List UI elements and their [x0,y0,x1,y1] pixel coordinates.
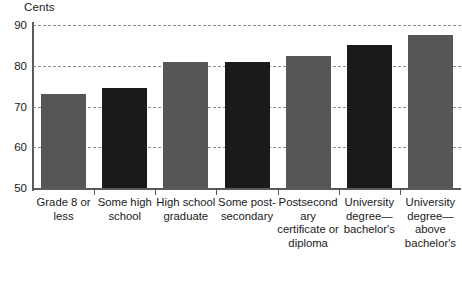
x-axis-tick [94,190,95,195]
bar [347,45,392,188]
x-axis-category-label: Grade 8 or less [31,196,96,223]
x-axis-line [32,188,461,190]
x-axis-tick [339,190,340,195]
y-axis-tick-label: 70 [0,101,27,113]
x-axis-category-label: High school graduate [153,196,218,223]
y-axis-tick-label: 90 [0,19,27,31]
x-axis-category-label: University degree—above bachelor's [398,196,462,250]
y-axis-tick-label: 80 [0,60,27,72]
bar-chart: Cents 5060708090 Grade 8 or lessSome hig… [0,0,462,281]
x-axis-category-label: Postsecondary certificate or diploma [276,196,341,250]
x-axis-tick [400,190,401,195]
x-axis-category-label: Some post-secondary [214,196,279,223]
y-axis-unit-caption: Cents [24,1,55,13]
x-axis-category-labels: Grade 8 or lessSome high schoolHigh scho… [33,196,461,281]
x-axis-tick [216,190,217,195]
x-axis-tick [278,190,279,195]
bar [102,88,147,188]
bar [225,62,270,188]
x-axis-category-label: University degree—bachelor's [337,196,402,237]
bar [286,56,331,188]
y-axis-tick-label: 50 [0,182,27,194]
bar [163,62,208,188]
x-axis-tick [155,190,156,195]
x-axis-category-label: Some high school [92,196,157,223]
bar [41,94,86,188]
bar [408,35,453,188]
bars-group [33,25,461,188]
y-axis-tick-label: 60 [0,141,27,153]
